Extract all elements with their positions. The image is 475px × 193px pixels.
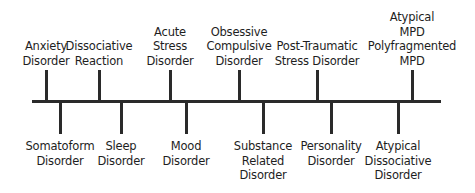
timeline-tick-above: [238, 70, 241, 102]
label-line: Atypical: [365, 139, 432, 154]
timeline-tick-above: [411, 70, 414, 102]
label-line: Disorder: [22, 54, 69, 69]
timeline-label-below: PersonalityDisorder: [300, 139, 361, 168]
label-line: MPD: [368, 25, 456, 40]
timeline-label-above: ObsessiveCompulsiveDisorder: [206, 25, 271, 69]
label-line: Stress Disorder: [275, 54, 360, 69]
timeline-label-above: AtypicalMPDPolyfragmentedMPD: [368, 10, 456, 68]
timeline-tick-below: [330, 101, 333, 134]
timeline-label-above: AcuteStressDisorder: [146, 25, 193, 69]
label-line: Reaction: [66, 54, 133, 69]
label-line: Disorder: [146, 54, 193, 69]
label-line: Disorder: [206, 54, 271, 69]
label-line: Polyfragmented: [368, 39, 456, 54]
label-line: Atypical: [368, 10, 456, 25]
timeline-tick-above: [316, 70, 319, 102]
timeline-tick-below: [185, 101, 188, 134]
label-line: Related: [234, 154, 292, 169]
timeline-tick-above: [169, 70, 172, 102]
label-line: Substance: [234, 139, 292, 154]
timeline-tick-below: [262, 101, 265, 134]
label-line: Compulsive: [206, 39, 271, 54]
label-line: Anxiety: [22, 39, 69, 54]
label-line: Disorder: [26, 154, 95, 169]
label-line: Disorder: [365, 168, 432, 183]
timeline-label-below: AtypicalDissociativeDisorder: [365, 139, 432, 183]
timeline-label-above: Post-TraumaticStress Disorder: [275, 39, 360, 68]
timeline-label-below: SleepDisorder: [97, 139, 144, 168]
timeline-tick-below: [397, 101, 400, 134]
label-line: Obsessive: [206, 25, 271, 40]
label-line: Stress: [146, 39, 193, 54]
timeline-tick-below: [120, 101, 123, 134]
label-line: Disorder: [97, 154, 144, 169]
label-line: MPD: [368, 54, 456, 69]
timeline-tick-below: [59, 101, 62, 134]
label-line: Dissociative: [66, 39, 133, 54]
label-line: Personality: [300, 139, 361, 154]
label-line: Disorder: [300, 154, 361, 169]
label-line: Disorder: [162, 154, 209, 169]
timeline-label-below: SomatoformDisorder: [26, 139, 95, 168]
timeline-axis: [32, 100, 441, 103]
label-line: Post-Traumatic: [275, 39, 360, 54]
timeline-label-below: MoodDisorder: [162, 139, 209, 168]
label-line: Somatoform: [26, 139, 95, 154]
label-line: Disorder: [234, 168, 292, 183]
timeline-label-above: AnxietyDisorder: [22, 39, 69, 68]
timeline-tick-above: [45, 70, 48, 102]
timeline-label-below: SubstanceRelatedDisorder: [234, 139, 292, 183]
label-line: Mood: [162, 139, 209, 154]
label-line: Sleep: [97, 139, 144, 154]
label-line: Dissociative: [365, 154, 432, 169]
timeline-label-above: DissociativeReaction: [66, 39, 133, 68]
timeline-tick-above: [98, 70, 101, 102]
label-line: Acute: [146, 25, 193, 40]
